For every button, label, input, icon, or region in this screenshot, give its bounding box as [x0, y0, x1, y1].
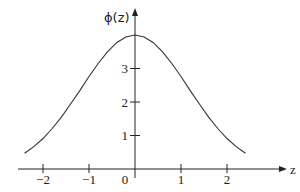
y-tick-label: 2 — [122, 95, 129, 110]
x-tick-label: 0 — [122, 172, 129, 187]
y-ticks: 123 — [122, 61, 141, 143]
x-tick-label: −1 — [82, 172, 96, 187]
y-axis-arrow-icon — [132, 8, 138, 16]
x-tick-label: 2 — [224, 172, 231, 187]
x-ticks: −2−1012 — [36, 164, 230, 187]
x-tick-label: 1 — [178, 172, 185, 187]
x-axis-label: z — [290, 162, 296, 177]
y-tick-label: 3 — [122, 61, 129, 76]
chart: −2−1012 123 z ϕ(z) — [0, 0, 300, 192]
x-tick-label: −2 — [36, 172, 50, 187]
y-tick-label: 1 — [122, 128, 129, 143]
y-axis-label: ϕ(z) — [104, 10, 130, 25]
axes — [18, 8, 287, 178]
x-axis-arrow-icon — [279, 166, 287, 172]
